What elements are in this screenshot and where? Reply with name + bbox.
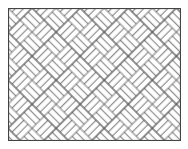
- pattern-svg: [8, 8, 181, 141]
- pattern-fill: [8, 8, 181, 141]
- basketweave-pattern-figure: [8, 8, 181, 141]
